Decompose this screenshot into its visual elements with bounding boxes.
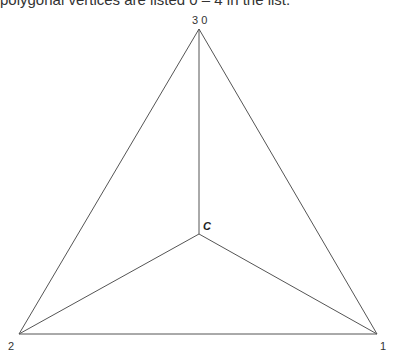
label-vertex-2: 2 [8,340,14,352]
label-vertex-1: 1 [380,340,386,352]
label-top-vertex: 3 0 [192,14,207,26]
spoke-c-2 [19,234,199,334]
edge-0-1 [199,29,377,334]
edge-2-3 [19,29,199,334]
label-center: C [203,220,212,232]
triangle-fan-diagram: 3 0 C 2 1 [0,0,395,362]
spoke-c-1 [199,234,377,334]
